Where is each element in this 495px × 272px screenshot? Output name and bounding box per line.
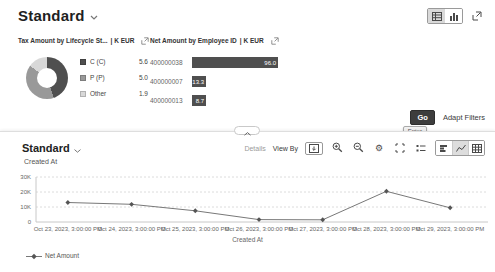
bar-category-label: 400000013 — [150, 97, 192, 104]
visual-filter-tax-amount: Tax Amount by Lifecycle St... | K EUR C … — [18, 33, 148, 99]
x-tick-label: Oct 23, 2023, 3:00:00 PM — [34, 226, 102, 232]
data-point[interactable] — [65, 200, 70, 205]
value-help-button[interactable] — [141, 33, 149, 48]
variant-title-group[interactable]: Standard — [18, 6, 98, 24]
fullscreen-icon — [395, 141, 405, 156]
visual-filter-title: Tax Amount by Lifecycle St... — [18, 37, 108, 44]
x-tick-label: Oct 25, 2023, 3:00:00 PM — [161, 226, 229, 232]
chart-dimension-label: Created At — [24, 158, 57, 165]
chevron-up-icon — [244, 122, 251, 140]
y-tick-label: 0 — [28, 219, 32, 225]
expand-icon — [472, 9, 482, 24]
donut-chart[interactable] — [26, 57, 68, 99]
visual-filter-net-amount: Net Amount by Employee ID | K EUR 400000… — [150, 33, 296, 106]
drilldown-icon — [309, 141, 319, 156]
chart-settings-button[interactable]: ⚙ — [372, 142, 386, 155]
y-tick-label: 20K — [20, 189, 31, 195]
visual-filter-unit: | K EUR — [111, 37, 135, 44]
x-tick-label: Oct 29, 2023, 3:00:00 PM — [416, 226, 484, 232]
header-actions — [427, 8, 485, 24]
bar-chart-rows: 40000003896.040000000713.34000000138.7 — [150, 57, 296, 106]
value-help-icon — [271, 33, 279, 48]
legend-label: P (P) — [90, 74, 105, 81]
line-chart-svg: 010K20K30KOct 23, 2023, 3:00:00 PMOct 24… — [0, 167, 495, 235]
y-tick-label: 10K — [20, 204, 31, 210]
details-button[interactable]: Details — [244, 145, 265, 152]
donut-legend: C (C)5.6P (P)5.0Other1.9 — [80, 57, 148, 99]
legend-swatch — [80, 91, 86, 97]
table-grid-icon — [472, 141, 482, 156]
chart-toolbar: Details View By — [244, 140, 485, 156]
visual-filter-bar: Tax Amount by Lifecycle St... | K EUR C … — [0, 33, 495, 132]
filter-actions: Go Adapt Filters — [410, 110, 485, 125]
legend-value: 5.0 — [139, 74, 148, 81]
data-point[interactable] — [257, 217, 262, 222]
bar-row[interactable]: 40000000713.3 — [150, 76, 296, 87]
drilldown-button[interactable] — [305, 142, 323, 155]
bar-track: 96.0 — [192, 57, 278, 68]
bar-value-label: 8.7 — [196, 98, 204, 104]
legend-swatch — [80, 75, 86, 81]
zoom-in-button[interactable] — [330, 142, 344, 155]
legend-value: 5.6 — [139, 58, 148, 65]
filter-bar-collapse-button[interactable] — [234, 126, 260, 135]
donut-filter-body: C (C)5.6P (P)5.0Other1.9 — [18, 57, 148, 99]
data-point[interactable] — [448, 205, 453, 210]
chart-view-button[interactable] — [445, 9, 462, 23]
value-help-button[interactable] — [271, 33, 279, 48]
legend-label: C (C) — [90, 58, 106, 65]
x-tick-label: Oct 27, 2023, 3:00:00 PM — [289, 226, 357, 232]
legend-swatch — [80, 59, 86, 65]
bar-fill: 13.3 — [192, 76, 206, 87]
bar-category-label: 400000007 — [150, 78, 192, 85]
line-chart-icon — [456, 141, 466, 156]
bar-track: 8.7 — [192, 95, 278, 106]
legend-toggle-button[interactable] — [414, 142, 428, 155]
x-tick-label: Oct 28, 2023, 3:00:00 PM — [352, 226, 420, 232]
line-series — [68, 191, 450, 220]
bar-chart-icon — [439, 141, 449, 156]
chevron-down-icon — [90, 6, 98, 24]
visual-filter-title-row: Net Amount by Employee ID | K EUR — [150, 33, 296, 48]
chart-legend-item[interactable]: Net Amount — [26, 246, 79, 264]
fullscreen-button[interactable] — [393, 142, 407, 155]
go-button[interactable]: Go — [410, 110, 434, 125]
view-by-button[interactable]: View By — [273, 145, 298, 152]
donut-legend-item[interactable]: C (C)5.6 — [80, 58, 148, 65]
bar-row[interactable]: 40000003896.0 — [150, 57, 296, 68]
donut-legend-item[interactable]: P (P)5.0 — [80, 74, 148, 81]
chart-panel: Standard Details View By — [0, 131, 495, 272]
chart-panel-header: Standard Details View By — [22, 139, 485, 157]
donut-legend-item[interactable]: Other1.9 — [80, 90, 148, 97]
table-icon — [432, 9, 442, 24]
bar-chart-type-button[interactable] — [436, 141, 452, 155]
table-view-button[interactable] — [428, 9, 445, 23]
visual-filter-title-row: Tax Amount by Lifecycle St... | K EUR — [18, 33, 148, 48]
chart-type-segmented — [435, 140, 485, 156]
page-title: Standard — [18, 7, 85, 24]
adapt-filters-button[interactable]: Adapt Filters — [443, 113, 485, 122]
bar-fill: 96.0 — [192, 57, 278, 68]
line-chart-type-button[interactable] — [452, 141, 468, 155]
x-tick-label: Oct 26, 2023, 3:00:00 PM — [225, 226, 293, 232]
bar-category-label: 400000038 — [150, 59, 192, 66]
bar-row[interactable]: 4000000138.7 — [150, 95, 296, 106]
zoom-out-button[interactable] — [351, 142, 365, 155]
table-chart-type-button[interactable] — [468, 141, 484, 155]
data-point[interactable] — [320, 217, 325, 222]
bar-chart-icon — [449, 9, 459, 24]
y-tick-label: 30K — [20, 174, 31, 180]
chevron-down-icon — [74, 139, 81, 157]
visual-filter-title: Net Amount by Employee ID — [150, 37, 237, 44]
gear-icon: ⚙ — [375, 144, 383, 153]
chart-variant-title-group[interactable]: Standard — [22, 139, 81, 157]
zoom-in-icon — [332, 141, 343, 156]
x-axis-title: Created At — [0, 236, 495, 243]
legend-value: 1.9 — [139, 90, 148, 97]
data-point[interactable] — [193, 208, 198, 213]
data-point[interactable] — [384, 189, 389, 194]
bar-value-label: 13.3 — [192, 79, 204, 85]
data-point[interactable] — [129, 202, 134, 207]
expand-button[interactable] — [469, 9, 485, 23]
legend-icon — [416, 141, 426, 156]
